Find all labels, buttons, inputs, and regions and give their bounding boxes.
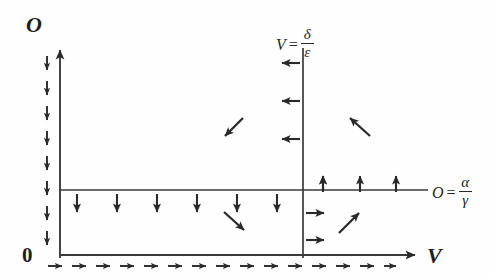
- vertical-nullcline-label: V = δ ε: [276, 28, 314, 62]
- vertical-nullcline-lhs: V: [276, 36, 286, 54]
- arrowset-horizontal-nullcline-down: [77, 194, 277, 212]
- horizontal-nullcline-label: O = α γ: [432, 176, 472, 210]
- horizontal-nullcline-denominator: γ: [460, 192, 470, 208]
- arrowset-vertical-nullcline-left: [282, 63, 300, 139]
- arrowset-vertical-nullcline-right: [306, 213, 324, 240]
- vertical-nullcline-numerator: δ: [302, 27, 313, 43]
- direction-field-diagram: [0, 0, 490, 277]
- arrow-region-lower-right-up-right: [339, 213, 359, 233]
- figure-canvas: O V 0 V = δ ε O = α γ: [0, 0, 490, 277]
- vertical-nullcline-denominator: ε: [302, 44, 312, 60]
- horizontal-nullcline-equals: =: [447, 184, 456, 202]
- origin-label: 0: [22, 245, 33, 266]
- arrow-region-lower-left-down-right: [224, 212, 244, 230]
- horizontal-nullcline-fraction: α γ: [459, 175, 472, 209]
- vertical-axis-label: O: [26, 14, 42, 36]
- vertical-nullcline-fraction: δ ε: [301, 27, 314, 61]
- arrow-region-upper-right-up-left: [350, 118, 370, 136]
- arrow-region-upper-left-down-left: [225, 118, 243, 136]
- horizontal-nullcline-lhs: O: [432, 184, 444, 202]
- vertical-nullcline-equals: =: [289, 36, 298, 54]
- horizontal-axis-label: V: [427, 245, 442, 267]
- horizontal-nullcline-numerator: α: [459, 175, 471, 191]
